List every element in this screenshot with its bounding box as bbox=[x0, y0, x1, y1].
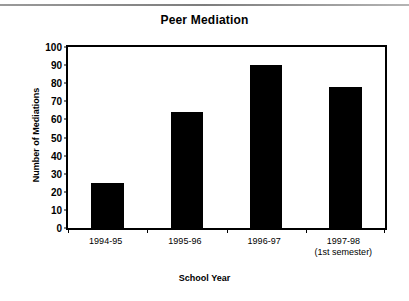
y-axis-tick-label: 80 bbox=[51, 78, 62, 89]
y-axis-tick-label: 50 bbox=[51, 132, 62, 143]
bar[interactable] bbox=[91, 183, 123, 228]
x-axis-category-sublabel: (1st semester) bbox=[304, 247, 383, 258]
y-axis-tick-mark bbox=[64, 209, 68, 210]
x-axis-tick-mark bbox=[227, 228, 228, 233]
y-axis-tick-label: 40 bbox=[51, 150, 62, 161]
chart-title: Peer Mediation bbox=[0, 13, 409, 27]
y-axis-tick-mark bbox=[64, 173, 68, 174]
x-axis-category-label: 1996-97 bbox=[225, 236, 304, 247]
x-axis-category-label: 1994-95 bbox=[66, 236, 145, 247]
bar[interactable] bbox=[250, 65, 282, 228]
y-axis-title: Number of Mediations bbox=[31, 55, 41, 215]
y-axis-tick-label: 100 bbox=[45, 42, 62, 53]
y-axis-tick-label: 70 bbox=[51, 96, 62, 107]
y-axis-tick-mark bbox=[64, 137, 68, 138]
y-axis-tick-mark bbox=[64, 155, 68, 156]
y-axis-tick-mark bbox=[64, 65, 68, 66]
plot-area: 0102030405060708090100 bbox=[68, 47, 385, 228]
x-axis-tick-mark bbox=[306, 228, 307, 233]
y-axis-tick-label: 20 bbox=[51, 186, 62, 197]
y-axis-tick-label: 0 bbox=[56, 223, 62, 234]
x-axis-category-label: 1997-98(1st semester) bbox=[304, 236, 383, 258]
x-axis-category-label: 1995-96 bbox=[145, 236, 224, 247]
x-axis-tick-mark bbox=[68, 228, 69, 233]
y-axis-tick-mark bbox=[64, 101, 68, 102]
x-axis-title: School Year bbox=[0, 273, 409, 283]
y-axis-tick-mark bbox=[64, 119, 68, 120]
x-axis-category-label-text: 1996-97 bbox=[248, 236, 281, 246]
y-axis-tick-label: 30 bbox=[51, 168, 62, 179]
y-axis-tick-label: 10 bbox=[51, 204, 62, 215]
x-axis-category-label-text: 1994-95 bbox=[89, 236, 122, 246]
x-axis-tick-mark bbox=[147, 228, 148, 233]
bar[interactable] bbox=[171, 112, 203, 228]
y-axis-tick-mark bbox=[64, 47, 68, 48]
x-axis-tick-mark bbox=[384, 228, 385, 233]
y-axis-tick-mark bbox=[64, 83, 68, 84]
y-axis-tick-mark bbox=[64, 191, 68, 192]
x-axis-category-label-text: 1995-96 bbox=[168, 236, 201, 246]
y-axis-tick-label: 60 bbox=[51, 114, 62, 125]
bar[interactable] bbox=[329, 87, 361, 228]
y-axis-tick-label: 90 bbox=[51, 60, 62, 71]
plot-frame: 0102030405060708090100 bbox=[66, 45, 387, 230]
x-axis-category-label-text: 1997-98 bbox=[327, 236, 360, 246]
scan-artifact-rule bbox=[0, 4, 409, 6]
